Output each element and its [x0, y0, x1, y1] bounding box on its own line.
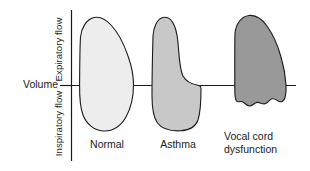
label-asthma-text: Asthma [160, 138, 196, 150]
volume-axis-label: Volume [2, 78, 58, 90]
label-vocal-cord-dysfunction: Vocal cord dysfunction [224, 130, 304, 155]
curve-asthma [152, 17, 201, 131]
asthma-loop-path [152, 17, 201, 131]
expiratory-flow-axis-label-text: Expiratory flow [54, 17, 65, 81]
label-normal-text: Normal [90, 138, 124, 150]
flow-volume-loop-figure: Expiratory flow Inspiratory flow Volume … [0, 0, 310, 171]
label-normal: Normal [76, 138, 138, 150]
label-asthma: Asthma [148, 138, 208, 150]
label-vcd-line1: Vocal cord [224, 130, 304, 143]
curve-normal [80, 17, 134, 131]
normal-loop-path [80, 17, 134, 131]
curve-vocal-cord-dysfunction [235, 15, 286, 106]
inspiratory-flow-axis-label: Inspiratory flow [52, 87, 66, 160]
label-vcd-line2: dysfunction [224, 143, 304, 156]
expiratory-flow-axis-label: Expiratory flow [52, 14, 66, 84]
inspiratory-flow-axis-label-text: Inspiratory flow [54, 91, 65, 156]
vcd-loop-path [235, 15, 286, 106]
volume-axis-label-text: Volume [23, 78, 58, 90]
